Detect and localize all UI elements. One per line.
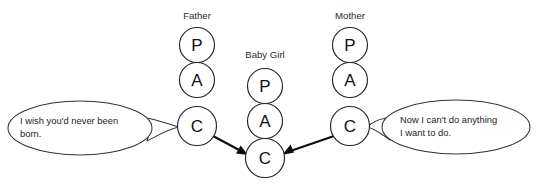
- column-label-mother: Mother: [335, 10, 366, 21]
- ego-state-father-adult[interactable]: A: [180, 63, 215, 98]
- arrow-shaft-mother: [289, 136, 334, 152]
- ego-letter-baby-parent: P: [259, 77, 270, 96]
- ego-letter-baby-adult: A: [259, 112, 271, 131]
- ego-state-father-parent[interactable]: P: [180, 28, 215, 63]
- arrow-shaft-father: [213, 136, 242, 152]
- ego-state-baby-parent[interactable]: P: [248, 69, 283, 104]
- ego-letter-mother-child: C: [344, 117, 356, 136]
- column-label-baby-girl: Baby Girl: [245, 49, 284, 60]
- ego-state-baby-child[interactable]: C: [246, 139, 285, 178]
- speech-bubble-mother: Now I can't do anything I want to do.: [368, 100, 530, 154]
- ego-letter-father-adult: A: [191, 71, 203, 90]
- ego-state-mother-child[interactable]: C: [331, 107, 370, 146]
- ego-letter-mother-parent: P: [344, 36, 355, 55]
- ego-column-mother: Mother P A C: [331, 10, 370, 146]
- transaction-arrow-mother-to-baby: [282, 136, 334, 155]
- speech-bubble-mother-line-2: I want to do.: [400, 127, 451, 138]
- transaction-arrow-father-to-baby: [213, 136, 248, 155]
- ego-letter-father-parent: P: [191, 36, 202, 55]
- ego-column-father: Father P A C: [178, 10, 217, 146]
- ego-letter-mother-adult: A: [344, 71, 356, 90]
- ego-state-diagram: I wish you'd never been born. Now I can'…: [0, 0, 550, 193]
- column-label-father: Father: [183, 10, 212, 21]
- speech-bubble-father-line-2: born.: [20, 128, 41, 139]
- speech-bubble-father: I wish you'd never been born.: [8, 101, 179, 155]
- ego-letter-baby-child: C: [259, 149, 271, 168]
- speech-bubble-mother-line-1: Now I can't do anything: [400, 114, 497, 125]
- ego-letter-father-child: C: [191, 117, 203, 136]
- ego-state-mother-adult[interactable]: A: [333, 63, 368, 98]
- ego-state-mother-parent[interactable]: P: [333, 28, 368, 63]
- ego-state-father-child[interactable]: C: [178, 107, 217, 146]
- ego-state-baby-adult[interactable]: A: [248, 104, 283, 139]
- ta-diagram-canvas: I wish you'd never been born. Now I can'…: [0, 0, 550, 193]
- ego-column-baby-girl: Baby Girl P A C: [245, 49, 284, 178]
- speech-bubble-father-line-1: I wish you'd never been: [20, 115, 118, 126]
